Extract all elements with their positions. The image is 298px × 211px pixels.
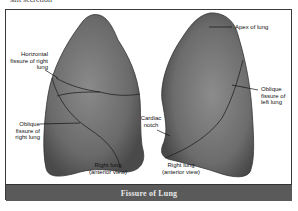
left-lung-shape	[162, 13, 254, 177]
label-oblique-fissure-right: Oblique fissure of right lung	[6, 121, 40, 141]
lung-illustration	[0, 0, 298, 211]
label-oblique-fissure-left: Oblique fissure of left lung	[261, 86, 291, 106]
label-right-lung-1: Right lung (anterior view)	[87, 162, 129, 175]
label-apex-of-lung: Apex of lung	[235, 24, 295, 31]
label-horizontal-fissure: Horizontal fissure of right lung	[6, 51, 48, 71]
caption-bar: Fissure of Lung	[6, 184, 292, 201]
label-right-lung-2: Right lung (anterior view)	[160, 162, 202, 175]
figure-caption: Fissure of Lung	[121, 189, 178, 198]
label-cardiac-notch: Cardiac notch	[136, 115, 166, 128]
